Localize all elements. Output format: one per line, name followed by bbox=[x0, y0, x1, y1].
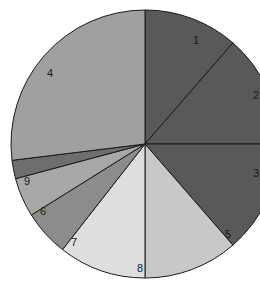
pie-slice-label-2: 2 bbox=[253, 90, 259, 101]
pie-slice-label-5: 5 bbox=[225, 229, 231, 240]
pie-slice-label-9: 9 bbox=[24, 176, 30, 187]
pie-slice-label-6: 6 bbox=[40, 206, 46, 217]
pie-slice-label-1: 1 bbox=[193, 35, 199, 46]
pie-chart-figure: 123587694 bbox=[0, 0, 260, 285]
pie-chart-svg bbox=[0, 0, 260, 285]
pie-slice-4 bbox=[11, 10, 145, 160]
pie-slice-label-4: 4 bbox=[47, 68, 53, 79]
pie-slice-label-7: 7 bbox=[71, 237, 77, 248]
pie-slice-label-8: 8 bbox=[137, 263, 143, 274]
pie-slice-label-3: 3 bbox=[253, 168, 259, 179]
